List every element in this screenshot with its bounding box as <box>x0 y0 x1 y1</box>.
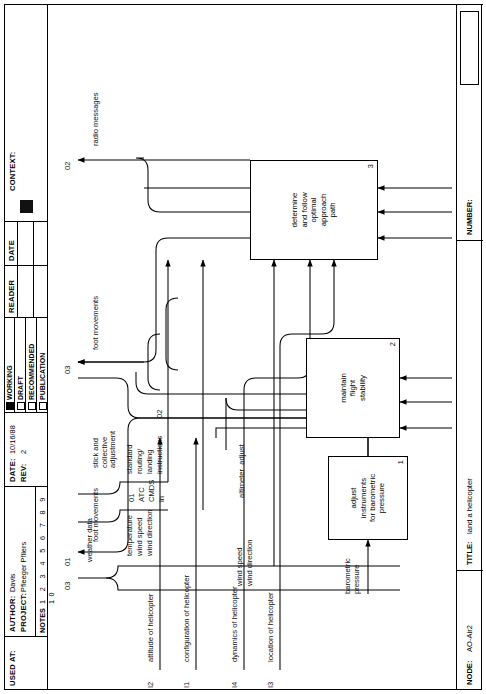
used-at-label: USED AT: <box>8 650 17 686</box>
date2-label: DATE <box>7 240 16 261</box>
status-row-publication[interactable]: PUBLICATION <box>37 318 48 412</box>
author-value: Davis <box>8 574 17 592</box>
date-label: DATE: <box>8 458 17 482</box>
label-location: location of helicopter <box>267 592 276 662</box>
activity-box-3[interactable]: determine and follow optimal approach pa… <box>250 160 378 260</box>
label-c1-code: 01 <box>128 494 137 502</box>
activity-box-2[interactable]: maintain flight stability 2 <box>306 338 400 438</box>
label-dynamics: dynamics of helicopter <box>231 586 240 662</box>
status-label-recommended: RECOMMENDED <box>28 344 35 400</box>
status-checkbox-working[interactable] <box>6 403 14 411</box>
author-project-cell: AUTHOR: Davis PROJECT: Pfleeger Pfliers … <box>4 486 48 636</box>
label-attitude: attitude of helicopter <box>147 594 156 662</box>
status-checkbox-draft[interactable] <box>17 403 25 411</box>
node-cell: NODE: AO-Air2 <box>457 570 483 690</box>
activity-box-3-label: determine and follow optimal approach pa… <box>290 161 337 259</box>
label-c3-code: 03 <box>64 582 73 590</box>
activity-box-1-label: adjust instruments for barometric pressu… <box>349 457 387 539</box>
activity-box-2-label: maintain flight stability <box>339 339 367 437</box>
label-foot-movements-3: foot movements <box>92 296 101 350</box>
reader-divider <box>17 266 18 317</box>
status-checkbox-publication[interactable] <box>39 403 47 411</box>
reader-label: READER <box>7 280 16 313</box>
label-foot-movements-1: foot movements <box>92 488 101 542</box>
title-cell: TITLE: land a helicopter <box>457 240 483 570</box>
activity-box-1-number: 1 <box>396 460 405 464</box>
date-rev-cell: DATE: 10/16/88 REV: 2 <box>4 412 48 486</box>
label-o1-code: 01 <box>64 558 73 566</box>
label-c2-code: 02 <box>156 410 165 418</box>
author-label: AUTHOR: <box>8 596 17 632</box>
status-cell: WORKING DRAFT RECOMMENDED PUBLICATION <box>4 317 48 412</box>
number-input-box[interactable] <box>460 11 479 85</box>
label-cmds: CMDS <box>148 480 157 502</box>
project-value: Pfleeger Pfliers <box>19 542 28 592</box>
context-label: CONTEXT: <box>8 151 17 191</box>
label-wind-direction-mid: wind direction <box>246 540 255 586</box>
number-label: NUMBER: <box>465 199 474 235</box>
date2-cell: DATE <box>4 221 48 265</box>
label-o3-code: 03 <box>64 366 73 374</box>
label-routing: routing/ <box>136 449 145 474</box>
idef0-sheet: USED AT: AUTHOR: Davis PROJECT: Pfleeger… <box>0 0 486 694</box>
activity-box-3-number: 3 <box>366 164 375 168</box>
rev-value: 2 <box>19 450 28 454</box>
label-radio-messages: radio messages <box>92 92 101 146</box>
context-marker-icon <box>20 200 33 213</box>
status-label-draft: DRAFT <box>17 376 24 400</box>
rev-label: REV: <box>19 463 28 482</box>
label-altimeter-adjust: altimeter adjust <box>238 444 247 498</box>
title-block: USED AT: AUTHOR: Davis PROJECT: Pfleeger… <box>4 4 48 690</box>
title-label: TITLE: <box>465 541 474 565</box>
used-at-cell: USED AT: <box>4 636 48 690</box>
label-wind-speed-top: wind speed <box>136 518 145 556</box>
activity-box-1[interactable]: adjust instruments for barometric pressu… <box>328 456 408 540</box>
notes-label: NOTES <box>38 608 47 633</box>
label-atc: ATC <box>138 487 147 502</box>
label-temperature: temperature <box>126 515 135 556</box>
label-o2-code: 02 <box>64 162 73 170</box>
reader-divider-2 <box>33 266 34 317</box>
label-standard: standard <box>126 444 135 474</box>
status-row-working[interactable]: WORKING <box>4 318 15 412</box>
status-checkbox-recommended[interactable] <box>28 403 36 411</box>
notes-row: NOTES 1 2 3 4 5 6 7 8 9 10 <box>35 487 48 636</box>
label-instructions: instructions <box>156 436 165 474</box>
label-i1-code: I1 <box>183 682 192 688</box>
context-cell: CONTEXT: <box>4 4 48 221</box>
status-label-working: WORKING <box>6 365 13 400</box>
date2-divider-2 <box>33 222 34 265</box>
label-wind-direction-top: wind direction <box>146 510 155 556</box>
label-i4-code: I4 <box>231 682 240 688</box>
label-landing: landing <box>146 450 155 475</box>
label-i3-code: I3 <box>267 682 276 688</box>
number-cell: NUMBER: <box>457 4 483 240</box>
reader-cell: READER <box>4 265 48 317</box>
label-barometric-pressure: barometric pressure <box>344 558 361 594</box>
status-row-draft[interactable]: DRAFT <box>15 318 26 412</box>
label-stick-collective: stick and collective adjustment <box>92 431 118 468</box>
diagram-canvas: adjust instruments for barometric pressu… <box>48 4 452 690</box>
node-label: NODE: <box>465 661 474 685</box>
bottom-block: NODE: AO-Air2 TITLE: land a helicopter N… <box>456 4 482 690</box>
status-row-recommended[interactable]: RECOMMENDED <box>26 318 37 412</box>
status-label-publication: PUBLICATION <box>39 353 46 400</box>
title-value: land a helicopter <box>465 478 474 534</box>
label-i2-code: I2 <box>147 682 156 688</box>
date2-divider <box>17 222 18 265</box>
project-label: PROJECT: <box>19 593 28 632</box>
idef0-diagram-page: USED AT: AUTHOR: Davis PROJECT: Pfleeger… <box>0 0 486 694</box>
label-wind-speed-mid: wind speed <box>236 548 245 586</box>
label-in: in <box>158 496 167 502</box>
date-value: 10/16/88 <box>8 425 17 454</box>
node-value: AO-Air2 <box>465 625 474 652</box>
label-configuration: configuration of helicopter <box>183 575 192 662</box>
activity-box-2-number: 2 <box>388 342 397 346</box>
